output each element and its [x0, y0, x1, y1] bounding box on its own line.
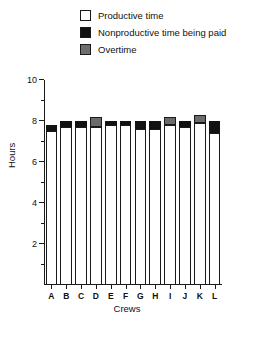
- bar-segment-nonproductive: [209, 121, 221, 133]
- legend-label: Productive time: [98, 10, 163, 21]
- bar-A[interactable]: A: [46, 80, 58, 285]
- x-tick: [111, 285, 112, 289]
- bar-segment-productive: [194, 123, 206, 285]
- x-tick-label-A: A: [48, 291, 54, 301]
- x-tick-label-F: F: [123, 291, 128, 301]
- bar-H[interactable]: H: [149, 80, 161, 285]
- x-tick: [126, 285, 127, 289]
- y-tick-label: 6: [32, 157, 37, 167]
- bar-segment-overtime: [164, 117, 176, 125]
- bar-segment-nonproductive: [120, 121, 132, 125]
- legend-swatch-icon: [80, 27, 91, 38]
- legend-swatch-icon: [80, 10, 91, 21]
- bar-segment-productive: [105, 125, 117, 285]
- y-axis-title: Hours: [6, 143, 17, 168]
- bar-segment-productive: [149, 129, 161, 285]
- bar-E[interactable]: E: [105, 80, 117, 285]
- bar-segment-productive: [90, 127, 102, 285]
- bar-K[interactable]: K: [194, 80, 206, 285]
- y-tick-label: 2: [32, 239, 37, 249]
- bar-segment-nonproductive: [105, 121, 117, 125]
- x-tick: [140, 285, 141, 289]
- bar-segment-nonproductive: [135, 121, 147, 129]
- x-axis-title: Crews: [0, 303, 254, 314]
- x-tick-label-I: I: [169, 291, 171, 301]
- bar-segment-productive: [135, 129, 147, 285]
- legend-item-overtime: Overtime: [80, 42, 226, 57]
- bar-segment-nonproductive: [46, 125, 58, 131]
- x-tick: [51, 285, 52, 289]
- x-tick-label-G: G: [137, 291, 144, 301]
- bar-G[interactable]: G: [135, 80, 147, 285]
- plot-area: 246810 ABCDEFGHIJKL: [44, 80, 222, 285]
- bar-segment-nonproductive: [75, 121, 87, 127]
- x-tick-label-L: L: [212, 291, 217, 301]
- x-tick: [170, 285, 171, 289]
- x-tick: [96, 285, 97, 289]
- bar-segment-productive: [75, 127, 87, 285]
- x-tick-label-H: H: [152, 291, 158, 301]
- bar-segment-productive: [46, 131, 58, 285]
- x-tick: [66, 285, 67, 289]
- bar-segment-nonproductive: [60, 121, 72, 127]
- bar-segment-nonproductive: [149, 121, 161, 129]
- x-tick-label-J: J: [183, 291, 188, 301]
- bar-segment-nonproductive: [179, 121, 191, 127]
- bar-L[interactable]: L: [209, 80, 221, 285]
- x-tick-label-C: C: [78, 291, 84, 301]
- bar-segment-productive: [164, 125, 176, 285]
- bar-I[interactable]: I: [164, 80, 176, 285]
- bar-C[interactable]: C: [75, 80, 87, 285]
- chart-figure: Productive timeNonproductive time being …: [0, 0, 254, 338]
- x-tick-label-D: D: [93, 291, 99, 301]
- x-tick: [215, 285, 216, 289]
- x-tick-label-E: E: [108, 291, 114, 301]
- x-tick: [155, 285, 156, 289]
- legend-item-productive: Productive time: [80, 8, 226, 23]
- bar-D[interactable]: D: [90, 80, 102, 285]
- legend-swatch-icon: [80, 44, 91, 55]
- x-tick: [200, 285, 201, 289]
- x-tick-label-B: B: [63, 291, 69, 301]
- bar-J[interactable]: J: [179, 80, 191, 285]
- x-tick: [185, 285, 186, 289]
- legend-item-nonproductive: Nonproductive time being paid: [80, 25, 226, 40]
- y-tick-label: 10: [27, 75, 37, 85]
- bar-segment-overtime: [90, 117, 102, 127]
- bar-segment-productive: [179, 127, 191, 285]
- bar-segment-overtime: [194, 115, 206, 123]
- bar-segment-productive: [60, 127, 72, 285]
- x-tick-label-K: K: [197, 291, 203, 301]
- bar-segment-productive: [209, 133, 221, 285]
- bar-segment-productive: [120, 125, 132, 285]
- legend-label: Overtime: [98, 44, 137, 55]
- y-tick-label: 4: [32, 198, 37, 208]
- chart-legend: Productive timeNonproductive time being …: [80, 8, 226, 59]
- bar-F[interactable]: F: [120, 80, 132, 285]
- x-tick: [81, 285, 82, 289]
- legend-label: Nonproductive time being paid: [98, 27, 226, 38]
- bar-series-group: ABCDEFGHIJKL: [44, 80, 222, 285]
- y-tick-label: 8: [32, 116, 37, 126]
- bar-B[interactable]: B: [60, 80, 72, 285]
